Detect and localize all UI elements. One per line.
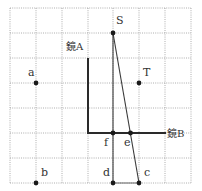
label-d: d — [103, 166, 110, 179]
ray-lines — [113, 33, 139, 183]
grid — [10, 8, 191, 183]
label-c: c — [144, 166, 150, 179]
mirror-grid-diagram: S T a b c d e f 鏡A 鏡B — [0, 0, 202, 191]
label-f: f — [104, 136, 109, 149]
label-s: S — [116, 14, 124, 27]
point-d — [111, 181, 116, 186]
point-b — [34, 181, 39, 186]
label-mirror-b: 鏡B — [167, 127, 184, 139]
labels: S T a b c d e f 鏡A 鏡B — [28, 14, 184, 179]
point-t — [137, 81, 142, 86]
label-b: b — [41, 166, 48, 179]
point-e — [128, 131, 133, 136]
label-t: T — [143, 66, 151, 79]
point-c — [137, 181, 142, 186]
label-a: a — [28, 66, 35, 79]
point-a — [34, 81, 39, 86]
label-mirror-a: 鏡A — [66, 40, 84, 52]
point-f — [111, 131, 116, 136]
label-e: e — [124, 136, 131, 149]
segment-s-c — [113, 33, 139, 183]
point-s — [111, 31, 116, 36]
